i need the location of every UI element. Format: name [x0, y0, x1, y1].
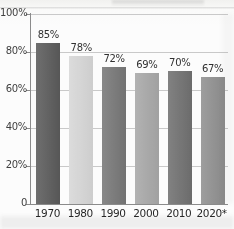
x-axis-line [30, 204, 228, 205]
gridline-40 [31, 128, 228, 129]
gridline-20 [31, 166, 228, 167]
y-axis-line [30, 13, 31, 205]
bar-chart: 020%40%60%80%100% 85%78%72%69%70%67% 197… [0, 0, 234, 229]
bar-value-label-2020*: 67% [194, 63, 232, 74]
bar-value-label-1970: 85% [29, 29, 67, 40]
bar-value-label-1980: 78% [62, 42, 100, 53]
bar-2020*[interactable] [201, 77, 225, 204]
gridline-100 [31, 14, 228, 15]
x-axis-label-2020-star: 2020* [192, 207, 231, 219]
bar-1980[interactable] [69, 56, 93, 204]
gridline-60 [31, 90, 228, 91]
bar-1990[interactable] [102, 67, 126, 204]
bar-2010[interactable] [168, 71, 192, 204]
y-tick-label-20: 20% [0, 159, 27, 170]
bar-1970[interactable] [36, 43, 60, 205]
y-tick-label-40: 40% [0, 121, 27, 132]
y-tick-label-0: 0 [0, 197, 27, 208]
y-tick-label-80: 80% [0, 45, 27, 56]
y-tick-label-100: 100% [0, 7, 27, 18]
bar-2000[interactable] [135, 73, 159, 204]
y-tick-label-60: 60% [0, 83, 27, 94]
